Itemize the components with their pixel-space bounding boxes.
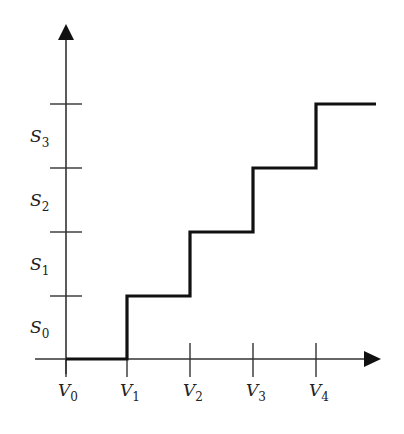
- x-axis-arrow-icon: [364, 351, 381, 367]
- y-axis-arrow-icon: [58, 24, 74, 40]
- y-label-s2: S2: [30, 190, 49, 214]
- y-label-s3: S3: [30, 126, 49, 150]
- x-label-v1: V1: [120, 380, 140, 404]
- step-function-diagram: S0 S1 S2 S3 V0 V1 V2 V3 V4: [0, 0, 404, 434]
- step-line: [66, 104, 376, 359]
- x-label-v2: V2: [183, 380, 203, 404]
- x-label-v4: V4: [309, 380, 329, 404]
- y-label-s1: S1: [30, 254, 49, 278]
- x-label-v0: V0: [58, 380, 78, 404]
- x-label-v3: V3: [246, 380, 266, 404]
- y-label-s0: S0: [30, 317, 49, 341]
